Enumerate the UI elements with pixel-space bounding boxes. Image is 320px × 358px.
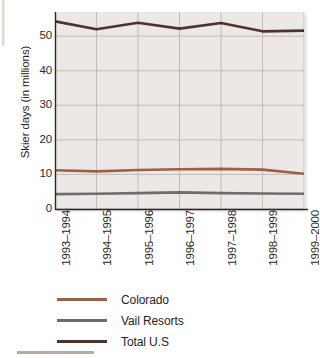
x-tick-label: 1995–1996 <box>143 210 155 280</box>
legend-color-swatch <box>57 319 107 322</box>
legend-item-label: Vail Resorts <box>121 314 184 328</box>
chart-legend: ColoradoVail ResortsTotal U.S <box>57 289 277 352</box>
y-axis-title: Skier days (in millions) <box>19 32 31 172</box>
x-tick-label: 1993–1994 <box>60 210 72 280</box>
x-tick-label: 1994–1995 <box>101 210 113 280</box>
x-axis-tick-labels: 1993–19941994–19951995–19961996–19971997… <box>55 210 304 282</box>
legend-color-swatch <box>57 298 107 301</box>
legend-item: Vail Resorts <box>57 310 277 331</box>
x-tick-label: 1997–1998 <box>226 210 238 280</box>
legend-item: Colorado <box>57 289 277 310</box>
legend-item: Total U.S <box>57 331 277 352</box>
x-tick-label: 1998–1999 <box>267 210 279 280</box>
x-tick-label: 1996–1997 <box>184 210 196 280</box>
footer-rule <box>17 351 94 354</box>
x-tick-label: 1999–2000 <box>309 210 320 280</box>
axis-lines <box>45 6 313 216</box>
legend-item-label: Colorado <box>121 293 169 307</box>
legend-color-swatch <box>57 340 107 343</box>
legend-item-label: Total U.S <box>121 335 169 349</box>
